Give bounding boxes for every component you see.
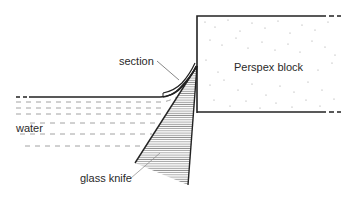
label-glass-knife: glass knife — [80, 172, 132, 184]
glass-knife — [135, 66, 197, 185]
section-leader-line — [157, 61, 179, 80]
water-surface-line — [29, 66, 197, 97]
microtome-sectioning-diagram: section Perspex block water glass knife — [0, 0, 358, 197]
label-water: water — [15, 122, 43, 134]
label-section: section — [119, 55, 154, 67]
glass-knife-body — [135, 66, 197, 185]
label-perspex-block: Perspex block — [234, 61, 304, 73]
